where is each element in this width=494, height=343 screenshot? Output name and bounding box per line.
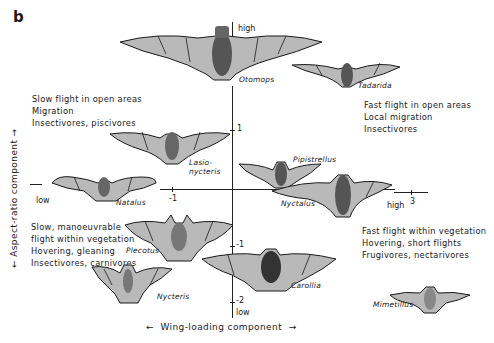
y-tick-minus2 — [230, 302, 235, 303]
species-label-line: Lasio- — [189, 158, 221, 167]
species-label-lasionycteris: Lasio- nycteris — [189, 158, 221, 176]
species-label-natalus: Natalus — [116, 198, 146, 207]
quadrant-top-left-text: Slow flight in open areas Migration Inse… — [32, 93, 142, 129]
quadrant-line: Hovering, gleaning — [31, 245, 137, 257]
species-label-mimetillus: Mimetillus — [373, 300, 413, 309]
y-axis-up-arrow: → — [9, 128, 19, 139]
species-label-nyctalus: Nyctalus — [281, 199, 315, 208]
x-tick-3 — [411, 190, 412, 195]
y-axis-down-arrow: ← — [9, 257, 19, 268]
quadrant-line: Slow flight in open areas — [32, 93, 142, 105]
quadrant-line: Hovering, short flights — [362, 237, 486, 249]
quadrant-line: Slow, manoeuvrable — [31, 221, 137, 233]
quadrant-line: Frugivores, nectarivores — [362, 249, 486, 261]
y-axis-title: ← Aspect-ratio component → — [9, 128, 19, 268]
x-axis-right-arrow: → — [289, 322, 297, 332]
x-axis-low-label: low — [36, 196, 50, 205]
x-axis-title: ← Wing-loading component → — [146, 322, 297, 332]
quadrant-line: Migration — [32, 105, 142, 117]
x-axis-left-arrow: ← — [146, 322, 154, 332]
y-axis-low-label: low — [236, 308, 250, 317]
y-tick-1-label: 1 — [237, 124, 242, 133]
quadrant-line: Fast flight within vegetation — [362, 225, 486, 237]
x-axis-left-stub — [30, 184, 42, 185]
quadrant-line: flight within vegetation — [31, 233, 137, 245]
quadrant-line: Insectivores — [364, 123, 471, 135]
panel-label: b — [13, 8, 24, 26]
nyctalus-bat-icon — [268, 171, 394, 221]
x-axis-title-text: Wing-loading component — [160, 322, 282, 332]
x-tick-minus1-label: -1 — [169, 194, 177, 203]
x-tick-minus1 — [172, 187, 173, 192]
quadrant-line: Fast flight in open areas — [364, 99, 471, 111]
species-label-nycteris: Nycteris — [157, 292, 189, 301]
y-tick-minus2-label: -2 — [236, 296, 244, 305]
species-label-otomops: Otomops — [239, 75, 274, 84]
species-label-pipistrellus: Pipistrellus — [293, 155, 336, 164]
species-label-plecotus: Plecotus — [126, 246, 159, 255]
species-label-carollia: Carollia — [291, 281, 321, 290]
quadrant-line: Local migration — [364, 111, 471, 123]
species-label-tadarida: Tadarida — [358, 81, 392, 90]
quadrant-top-right-text: Fast flight in open areas Local migratio… — [364, 99, 471, 135]
quadrant-bottom-left-text: Slow, manoeuvrable flight within vegetat… — [31, 221, 137, 269]
x-tick-3-label: 3 — [410, 197, 415, 206]
y-axis-title-text: Aspect-ratio component — [9, 140, 19, 257]
species-label-line: nycteris — [189, 167, 221, 176]
quadrant-bottom-right-text: Fast flight within vegetation Hovering, … — [362, 225, 486, 261]
